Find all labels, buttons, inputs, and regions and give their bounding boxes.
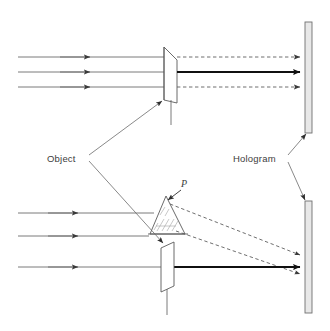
- lower-incoming-rays: [18, 213, 166, 267]
- upper-incoming-rays: [18, 57, 166, 87]
- object-callout: Object: [47, 101, 163, 243]
- lower-hologram-plate: [305, 201, 312, 313]
- optics-diagram: Object Hologram P: [0, 0, 330, 331]
- upper-hologram-plate: [305, 22, 312, 133]
- p-leader: [168, 190, 181, 200]
- hologram-leader-upper: [288, 134, 306, 155]
- hologram-label: Hologram: [233, 153, 276, 164]
- upper-object-plate: [164, 47, 177, 103]
- hologram-callout: Hologram: [233, 134, 306, 200]
- hologram-leader-lower: [288, 162, 305, 200]
- object-leader-upper: [89, 101, 162, 155]
- p-callout: P: [168, 178, 187, 200]
- lower-object-plate: [161, 242, 174, 292]
- lower-panel: [18, 196, 312, 315]
- upper-panel: [18, 22, 312, 133]
- diagram-canvas: Object Hologram P: [0, 0, 330, 331]
- point-p-label: P: [180, 178, 187, 189]
- object-leader-lower: [89, 161, 163, 243]
- lower-object-plate-group: [161, 242, 174, 315]
- lower-object-triangle: [148, 196, 188, 234]
- upper-object: [164, 47, 177, 125]
- lower-outgoing-ray-dashed-upper: [170, 204, 300, 255]
- lower-outgoing-rays: [170, 204, 300, 274]
- upper-outgoing-rays: [177, 57, 300, 87]
- object-label: Object: [47, 153, 76, 164]
